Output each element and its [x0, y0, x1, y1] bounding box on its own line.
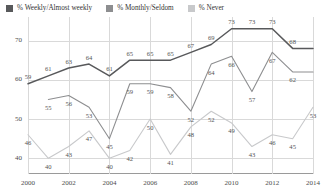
data-point-label: 59 [142, 89, 158, 96]
data-point-label: 46 [264, 140, 280, 147]
data-point-label: 53 [81, 113, 97, 120]
data-point-label: 69 [203, 35, 219, 42]
x-axis-tick-label: 2004 [94, 180, 124, 187]
data-point-label: 64 [81, 55, 97, 62]
data-point-label: 41 [163, 160, 179, 167]
data-point-label: 57 [244, 97, 260, 104]
x-axis-tick-label: 2002 [54, 180, 84, 187]
data-point-label: 67 [264, 58, 280, 65]
data-point-label: 65 [122, 51, 138, 58]
y-axis-tick-label: 70 [2, 37, 22, 44]
data-point-label: 61 [40, 66, 56, 73]
data-point-label: 59 [122, 89, 138, 96]
data-point-label: 61 [101, 66, 117, 73]
data-point-label: 67 [183, 43, 199, 50]
data-point-label: 43 [61, 152, 77, 159]
data-point-label: 64 [203, 70, 219, 77]
data-point-label: 48 [183, 132, 199, 139]
data-point-label: 65 [142, 51, 158, 58]
data-point-label: 49 [224, 128, 240, 135]
data-point-label: 73 [244, 19, 260, 26]
y-axis-tick-label: 40 [2, 155, 22, 162]
data-point-label: 73 [224, 19, 240, 26]
x-axis-tick-label: 2008 [176, 180, 206, 187]
y-axis-tick-label: 60 [2, 76, 22, 83]
data-point-label: 53 [305, 113, 321, 120]
data-point-label: 55 [40, 105, 56, 112]
x-axis-tick-label: 2010 [217, 180, 247, 187]
data-point-label: 42 [122, 156, 138, 163]
data-point-label: 73 [264, 19, 280, 26]
x-axis-tick-label: 2014 [298, 180, 325, 187]
x-axis-tick-label: 2000 [13, 180, 43, 187]
data-point-label: 43 [244, 152, 260, 159]
data-point-label: 63 [61, 59, 77, 66]
data-point-label: 52 [183, 117, 199, 124]
data-point-label: 47 [81, 136, 97, 143]
data-point-label: 56 [61, 101, 77, 108]
data-point-label: 65 [163, 51, 179, 58]
data-point-label: 50 [142, 125, 158, 132]
data-point-label: 46 [20, 140, 36, 147]
data-point-label: 59 [20, 74, 36, 81]
data-point-label: 66 [224, 62, 240, 69]
data-point-label: 52 [203, 117, 219, 124]
y-axis-tick-label: 50 [2, 116, 22, 123]
series-line [48, 52, 313, 138]
data-point-label: 40 [40, 164, 56, 171]
data-point-label: 68 [285, 39, 301, 46]
data-point-label: 58 [163, 93, 179, 100]
data-point-label: 45 [285, 144, 301, 151]
data-point-label: 40 [101, 164, 117, 171]
x-axis-tick-label: 2006 [135, 180, 165, 187]
data-point-label: 62 [285, 77, 301, 84]
x-axis-tick-label: 2012 [257, 180, 287, 187]
data-point-label: 45 [101, 144, 117, 151]
